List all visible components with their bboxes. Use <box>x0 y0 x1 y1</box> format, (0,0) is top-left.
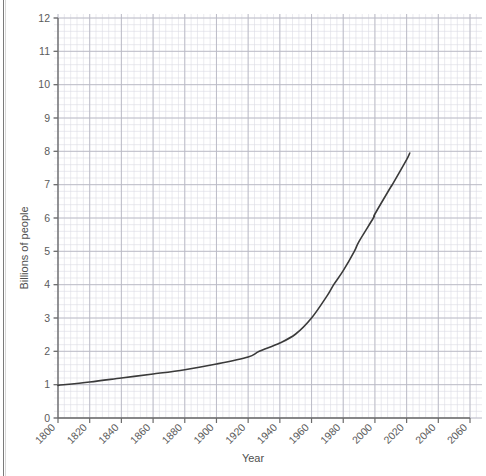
x-tick-label: 1920 <box>223 421 248 446</box>
series-line-world-population <box>58 153 410 385</box>
minor-gridlines <box>54 14 482 418</box>
x-tick-label: 2000 <box>349 421 374 446</box>
y-tick-label: 4 <box>44 278 50 290</box>
y-tick-label: 10 <box>38 78 50 90</box>
y-tick-label: 12 <box>38 12 50 24</box>
major-gridlines <box>54 14 482 418</box>
y-axis-title: Billions of people <box>18 206 30 289</box>
x-tick-label: 1960 <box>286 421 311 446</box>
chart-canvas: 0123456789101112 18001820184018601880190… <box>0 0 486 476</box>
x-tick-label: 1940 <box>254 421 279 446</box>
x-tick-label: 2060 <box>444 421 469 446</box>
data-series-layer <box>58 153 410 385</box>
x-tick-label: 1900 <box>191 421 216 446</box>
y-tick-labels: 0123456789101112 <box>38 12 50 424</box>
population-line-chart: 0123456789101112 18001820184018601880190… <box>0 0 486 476</box>
x-axis-title: Year <box>242 452 265 464</box>
y-tick-label: 8 <box>44 145 50 157</box>
x-tick-label: 1800 <box>32 421 57 446</box>
y-tick-label: 11 <box>39 45 50 57</box>
y-tick-label: 9 <box>44 112 50 124</box>
x-tick-label: 1820 <box>64 421 89 446</box>
x-tick-label: 2020 <box>381 421 406 446</box>
y-tick-label: 3 <box>44 312 50 324</box>
x-tick-label: 1840 <box>96 421 121 446</box>
y-tick-label: 7 <box>44 178 50 190</box>
axis-ticks <box>54 18 471 423</box>
y-tick-label: 1 <box>44 378 50 390</box>
x-tick-label: 1860 <box>127 421 152 446</box>
y-tick-label: 2 <box>44 345 50 357</box>
y-tick-label: 5 <box>44 245 50 257</box>
x-tick-label: 2040 <box>413 421 438 446</box>
x-tick-label: 1880 <box>159 421 184 446</box>
x-tick-labels: 1800182018401860188019001920194019601980… <box>32 421 469 446</box>
y-tick-label: 6 <box>44 212 50 224</box>
x-tick-label: 1980 <box>318 421 343 446</box>
